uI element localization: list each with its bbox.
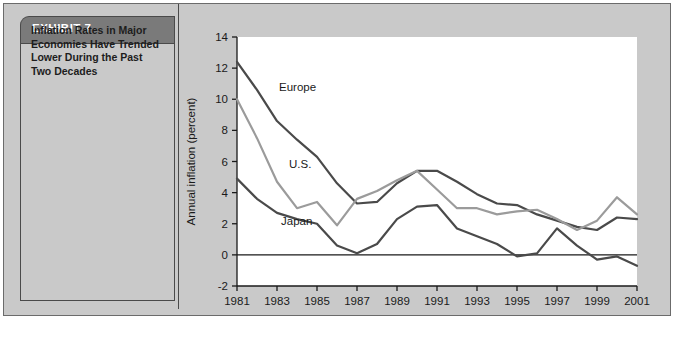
caption-body-panel bbox=[20, 43, 175, 301]
exhibit-panel: EXHIBIT 7 Inflation Rates in Major Econo… bbox=[0, 0, 681, 341]
x-tick-label: 1983 bbox=[264, 295, 290, 307]
x-tick-label: 1985 bbox=[304, 295, 330, 307]
series-label-us: U.S. bbox=[289, 158, 311, 170]
x-tick-label: 1987 bbox=[344, 295, 370, 307]
y-tick-label: 12 bbox=[215, 62, 228, 74]
exhibit-caption-text: Inflation Rates in Major Economies Have … bbox=[31, 24, 165, 78]
x-tick-label: 1997 bbox=[544, 295, 570, 307]
x-tick-label: 1989 bbox=[384, 295, 410, 307]
y-tick-label: 8 bbox=[222, 124, 228, 136]
series-label-japan: Japan bbox=[281, 215, 312, 227]
x-tick-label: 1993 bbox=[464, 295, 490, 307]
x-tick-label: 2001 bbox=[624, 295, 650, 307]
caption-column: EXHIBIT 7 Inflation Rates in Major Econo… bbox=[20, 16, 175, 301]
chart-container: -202468101214198119831985198719891991199… bbox=[179, 4, 668, 309]
x-tick-label: 1991 bbox=[424, 295, 450, 307]
series-label-europe: Europe bbox=[279, 81, 316, 93]
inflation-line-chart: -202468101214198119831985198719891991199… bbox=[179, 4, 668, 309]
y-tick-label: 6 bbox=[222, 156, 228, 168]
x-tick-label: 1999 bbox=[584, 295, 610, 307]
y-tick-label: 4 bbox=[222, 187, 229, 199]
y-tick-label: 2 bbox=[222, 218, 228, 230]
y-tick-label: -2 bbox=[218, 280, 228, 292]
x-tick-label: 1981 bbox=[224, 295, 250, 307]
y-tick-label: 14 bbox=[215, 31, 228, 43]
y-tick-label: 0 bbox=[222, 249, 228, 261]
y-tick-label: 10 bbox=[215, 93, 228, 105]
y-axis-title: Annual inflation (percent) bbox=[185, 97, 197, 225]
x-tick-label: 1995 bbox=[504, 295, 530, 307]
